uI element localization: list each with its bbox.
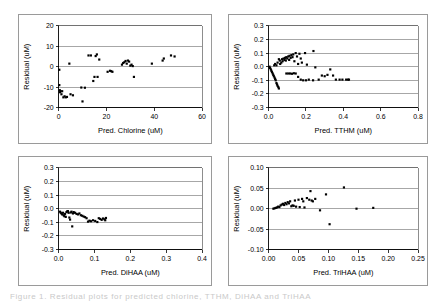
data-point [291,73,293,75]
data-point [302,200,304,202]
data-point [318,79,320,81]
scatter-plot-tthm: -0.3-0.2-0.10.00.10.20.30.00.20.40.60.8P… [229,15,427,143]
data-point [295,52,297,54]
y-axis-title: Residual (uM) [232,186,241,232]
data-point [60,93,62,95]
x-tick-label: 20 [103,113,111,120]
data-point [372,207,374,209]
x-tick-label: 0.2 [126,255,136,262]
data-point [312,79,314,81]
data-point-group [268,50,350,90]
y-tick-label: -0.2 [42,233,54,240]
data-point [292,53,294,55]
data-point [339,79,341,81]
data-point [290,57,292,59]
data-point [326,74,328,76]
data-point [92,219,94,221]
figure-caption-text: Figure 1. Residual plots for predicted c… [10,292,430,301]
data-point [278,87,280,89]
x-axis-title: Pred. Chlorine (uM) [98,126,163,135]
chart-panel-dihaa: -0.3-0.2-0.10.00.10.20.30.00.10.20.30.4P… [18,156,212,286]
y-tick-label: 10 [46,43,54,50]
x-tick-label: 0 [57,113,61,120]
data-point [321,74,323,76]
data-point [279,59,281,61]
data-point [126,63,128,65]
data-point [80,86,82,88]
data-point [329,68,331,70]
x-tick-label: 0.20 [381,255,395,262]
y-tick-label: 0.2 [44,178,54,185]
data-point [96,76,98,78]
data-point [345,79,347,81]
x-tick-label: 0.6 [376,113,386,120]
y-tick-label: -20 [44,104,54,111]
data-point [98,58,100,60]
chart-panel-trihaa: -0.10-0.050.000.050.100.000.050.100.150.… [228,156,428,286]
scatter-plot-trihaa: -0.10-0.050.000.050.100.000.050.100.150.… [229,157,427,285]
scatter-plot-dihaa: -0.3-0.2-0.10.00.10.20.30.00.10.20.30.4P… [19,157,211,285]
x-tick-label: 0.1 [90,255,100,262]
data-point [343,186,345,188]
data-point [306,64,308,66]
data-point [58,69,60,71]
data-point [289,200,291,202]
data-point [314,66,316,68]
data-point [58,84,60,86]
data-point [133,76,135,78]
data-point [132,65,134,67]
data-point [291,56,293,58]
y-tick-label: 0.05 [250,185,264,192]
data-point-group [59,210,107,227]
data-point [308,199,310,201]
data-point [276,62,278,64]
data-point [297,76,299,78]
data-point [81,100,83,102]
data-point [94,220,96,222]
data-point [312,50,314,52]
data-point [111,71,113,73]
y-tick-label: -0.05 [248,226,264,233]
y-axis-title: Residual (uM) [232,44,241,90]
data-point [84,87,86,89]
data-point [294,199,296,201]
data-point [332,74,334,76]
data-point [285,59,287,61]
data-point [341,79,343,81]
data-point [68,216,70,218]
y-axis-title: Residual (uM) [22,186,31,232]
data-point [295,72,297,74]
y-tick-label: 0.3 [44,164,54,171]
data-point [300,79,302,81]
y-tick-label: -0.10 [248,246,264,253]
y-tick-label: -10 [44,84,54,91]
data-point [306,197,308,199]
data-point [124,60,126,62]
data-point [300,57,302,59]
data-point [90,220,92,222]
data-point [96,53,98,55]
scatter-plot-chlorine: -20-10010200204060Pred. Chlorine (uM)Res… [19,15,211,143]
x-axis-title: Pred. DiHAA (uM) [101,268,160,277]
data-point [303,206,305,208]
x-tick-label: 0.10 [322,255,336,262]
data-point [174,55,176,57]
data-point [296,55,298,57]
data-point [302,79,304,81]
data-point [298,53,300,55]
x-tick-label: 0.25 [411,255,425,262]
data-point [87,54,89,56]
data-point [299,206,301,208]
y-tick-label: 20 [46,22,54,29]
data-point [335,79,337,81]
data-point-group [272,186,374,225]
data-point [62,212,64,214]
x-tick-label: 0.4 [197,255,207,262]
x-tick-label: 0.4 [339,113,349,120]
data-point [285,72,287,74]
data-point [287,72,289,74]
data-point [72,94,74,96]
x-tick-label: 60 [198,113,206,120]
data-point [293,72,295,74]
data-point [288,202,290,204]
